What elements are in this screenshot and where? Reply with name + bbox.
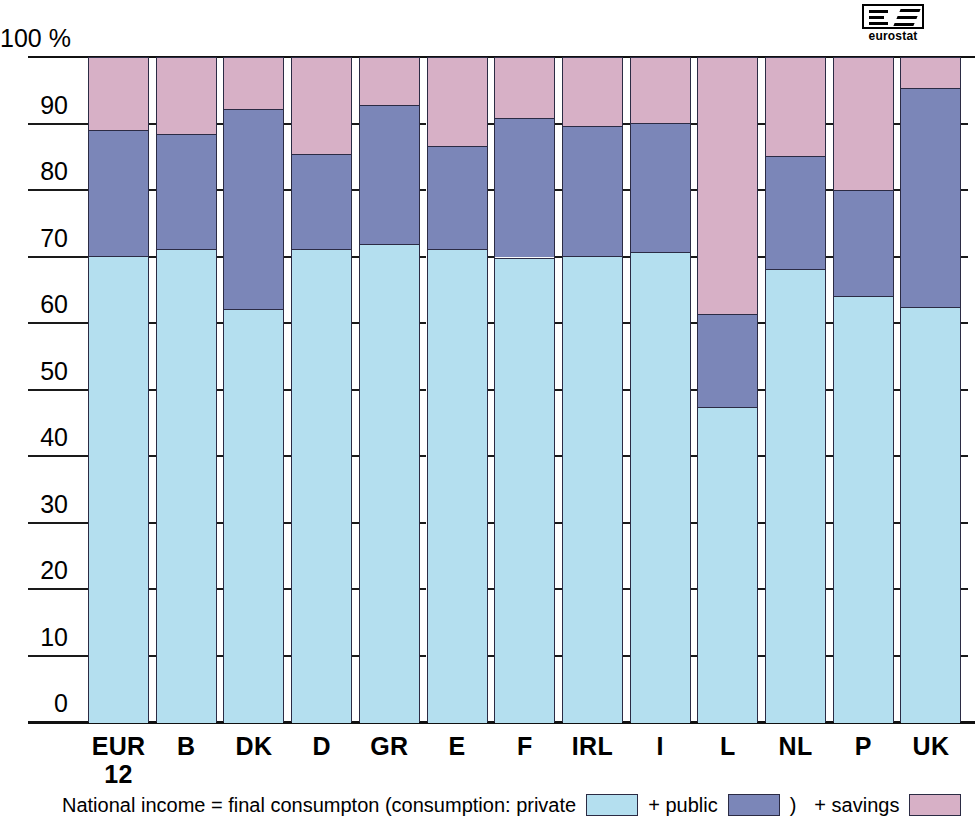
stacked-bar[interactable]: [833, 57, 894, 722]
y-axis-tick-value: 70: [0, 226, 78, 251]
gap-tick-mark: [623, 322, 630, 324]
bar-segment-savings[interactable]: [89, 58, 148, 130]
y-axis-tick-value: 20: [0, 558, 78, 583]
stacked-bar[interactable]: [765, 57, 826, 722]
bar-segment-public[interactable]: [698, 314, 757, 407]
bar-segment-public[interactable]: [428, 146, 487, 248]
gap-tick-mark: [217, 522, 224, 524]
y-axis-tick-label: 60: [0, 292, 78, 317]
gap-tick-mark: [894, 588, 901, 590]
bar-segment-public[interactable]: [224, 109, 283, 309]
bar-segment-public[interactable]: [89, 130, 148, 256]
stacked-bar[interactable]: [223, 57, 284, 722]
bar-segment-public[interactable]: [834, 190, 893, 296]
gap-tick-mark: [488, 256, 495, 258]
bar-segment-private[interactable]: [698, 407, 757, 723]
y-axis-tick-line: [28, 389, 88, 391]
gap-tick-mark: [217, 189, 224, 191]
bar-segment-savings[interactable]: [766, 58, 825, 156]
y-axis-tick-label: 70: [0, 226, 78, 251]
gap-tick-mark: [758, 189, 765, 191]
gap-tick-mark: [555, 189, 562, 191]
gap-tick-mark: [217, 389, 224, 391]
bar-segment-private[interactable]: [834, 296, 893, 723]
bar-segment-savings[interactable]: [631, 58, 690, 123]
chart-legend: National income = final consumpton (cons…: [0, 786, 937, 824]
gap-tick-mark: [758, 522, 765, 524]
gap-tick-mark: [691, 655, 698, 657]
private-swatch: [586, 794, 638, 816]
stacked-bar[interactable]: [427, 57, 488, 722]
gap-tick-mark: [555, 455, 562, 457]
bar-segment-private[interactable]: [292, 249, 351, 723]
legend-label-private: National income = final consumpton (cons…: [62, 794, 576, 817]
gap-tick-mark: [488, 522, 495, 524]
stacked-bar[interactable]: [900, 57, 961, 722]
y-axis-tick-line: [28, 522, 88, 524]
y-axis-tick-line: [28, 322, 88, 324]
stacked-bar[interactable]: [562, 57, 623, 722]
savings-swatch: [909, 794, 961, 816]
bar-segment-private[interactable]: [563, 256, 622, 723]
stacked-bar[interactable]: [697, 57, 758, 722]
bar-segment-public[interactable]: [563, 126, 622, 256]
gap-tick-mark: [217, 655, 224, 657]
y-axis-tick-label: 100 %: [0, 26, 78, 51]
bar-segment-private[interactable]: [766, 269, 825, 723]
gap-tick-mark: [894, 389, 901, 391]
bar-segment-savings[interactable]: [563, 58, 622, 126]
gap-tick-mark: [284, 455, 291, 457]
gap-tick-mark: [555, 322, 562, 324]
gap-tick-mark: [420, 389, 427, 391]
bar-segment-savings[interactable]: [495, 58, 554, 118]
gap-tick-mark: [555, 655, 562, 657]
gap-tick-mark: [284, 522, 291, 524]
bar-segment-savings[interactable]: [157, 58, 216, 134]
bar-segment-public[interactable]: [631, 123, 690, 252]
gap-tick-mark: [488, 322, 495, 324]
legend-label-savings: + savings: [796, 794, 899, 817]
gap-tick-mark: [149, 655, 156, 657]
gap-tick-mark: [284, 322, 291, 324]
bar-segment-private[interactable]: [428, 249, 487, 723]
y-axis-tick-line: [28, 123, 88, 125]
bar-segment-savings[interactable]: [360, 58, 419, 105]
stacked-bar[interactable]: [156, 57, 217, 722]
bar-segment-public[interactable]: [157, 134, 216, 248]
gap-tick-mark: [555, 588, 562, 590]
gap-tick-mark: [623, 189, 630, 191]
bar-segment-public[interactable]: [901, 88, 960, 307]
stacked-bar[interactable]: [291, 57, 352, 722]
bar-segment-public[interactable]: [292, 154, 351, 248]
stacked-bar[interactable]: [88, 57, 149, 722]
stacked-bar[interactable]: [359, 57, 420, 722]
bar-segment-public[interactable]: [360, 105, 419, 245]
bar-segment-savings[interactable]: [901, 58, 960, 88]
gap-tick-mark: [149, 256, 156, 258]
gap-tick-mark: [691, 455, 698, 457]
bar-segment-private[interactable]: [495, 258, 554, 724]
bar-segment-private[interactable]: [157, 249, 216, 723]
bar-segment-public[interactable]: [495, 118, 554, 258]
gap-tick-mark: [352, 522, 359, 524]
bar-segment-savings[interactable]: [292, 58, 351, 154]
bar-segment-private[interactable]: [89, 256, 148, 723]
bar-segment-savings[interactable]: [428, 58, 487, 146]
bar-segment-private[interactable]: [224, 309, 283, 723]
gap-tick-mark: [623, 655, 630, 657]
bar-segment-savings[interactable]: [224, 58, 283, 109]
gap-tick-mark: [352, 455, 359, 457]
gap-tick-mark: [691, 522, 698, 524]
bar-segment-savings[interactable]: [834, 58, 893, 190]
bar-segment-private[interactable]: [631, 252, 690, 723]
gap-tick-mark: [488, 189, 495, 191]
bar-segment-private[interactable]: [360, 244, 419, 723]
gap-tick-mark: [488, 655, 495, 657]
gap-tick-mark: [826, 322, 833, 324]
bar-segment-savings[interactable]: [698, 58, 757, 314]
bar-segment-public[interactable]: [766, 156, 825, 269]
stacked-bar[interactable]: [494, 57, 555, 722]
gap-tick-mark: [149, 455, 156, 457]
stacked-bar[interactable]: [630, 57, 691, 722]
bar-segment-private[interactable]: [901, 307, 960, 723]
